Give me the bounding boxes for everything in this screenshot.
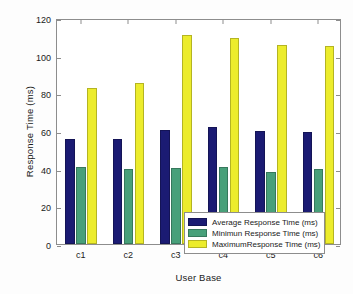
legend-item: MaximumResponse Time (ms) xyxy=(188,239,320,249)
legend-item: Average Response Time (ms) xyxy=(188,217,320,227)
legend-swatch-max xyxy=(188,240,207,248)
x-tick-mark xyxy=(175,20,176,24)
legend-label: MaximumResponse Time (ms) xyxy=(212,240,320,249)
chart-figure: Response Time (ms) User Base 02040608010… xyxy=(0,0,353,294)
y-tick-mark xyxy=(57,171,61,172)
x-tick-label: c1 xyxy=(61,250,101,260)
y-tick-mark xyxy=(336,246,340,247)
y-tick-label: 40 xyxy=(23,166,51,176)
y-tick-label: 0 xyxy=(23,241,51,251)
bar xyxy=(171,168,181,244)
legend-label: Minimun Response Time (ms) xyxy=(212,229,318,238)
bar xyxy=(160,130,170,244)
y-tick-mark xyxy=(336,171,340,172)
y-tick-mark xyxy=(336,95,340,96)
y-tick-mark xyxy=(336,133,340,134)
x-tick-mark xyxy=(318,20,319,24)
x-tick-mark xyxy=(80,20,81,24)
chart-legend: Average Response Time (ms)Minimun Respon… xyxy=(184,212,325,254)
plot-area: 020406080100120 c1c2c3c4c5c6 Average Res… xyxy=(56,19,341,245)
y-tick-label: 20 xyxy=(23,203,51,213)
legend-label: Average Response Time (ms) xyxy=(212,218,318,227)
legend-swatch-min xyxy=(188,229,207,237)
y-tick-mark xyxy=(57,208,61,209)
x-tick-label: c2 xyxy=(108,250,148,260)
x-axis-label: User Base xyxy=(56,272,341,283)
y-tick-mark xyxy=(57,246,61,247)
bar xyxy=(65,139,75,244)
y-tick-mark xyxy=(336,208,340,209)
x-tick-mark xyxy=(223,20,224,24)
bar xyxy=(135,83,145,244)
y-tick-mark xyxy=(57,58,61,59)
y-tick-mark xyxy=(336,58,340,59)
x-tick-mark xyxy=(270,20,271,24)
y-tick-label: 120 xyxy=(23,15,51,25)
bar xyxy=(76,167,86,244)
y-tick-label: 80 xyxy=(23,90,51,100)
y-tick-mark xyxy=(57,20,61,21)
y-tick-mark xyxy=(336,20,340,21)
bar xyxy=(124,169,134,244)
x-tick-mark xyxy=(128,20,129,24)
y-tick-mark xyxy=(57,133,61,134)
legend-item: Minimun Response Time (ms) xyxy=(188,228,320,238)
y-tick-label: 60 xyxy=(23,128,51,138)
bar xyxy=(325,46,335,244)
bar xyxy=(113,139,123,244)
y-tick-mark xyxy=(57,95,61,96)
y-tick-label: 100 xyxy=(23,53,51,63)
bar xyxy=(87,88,97,244)
legend-swatch-avg xyxy=(188,218,207,226)
